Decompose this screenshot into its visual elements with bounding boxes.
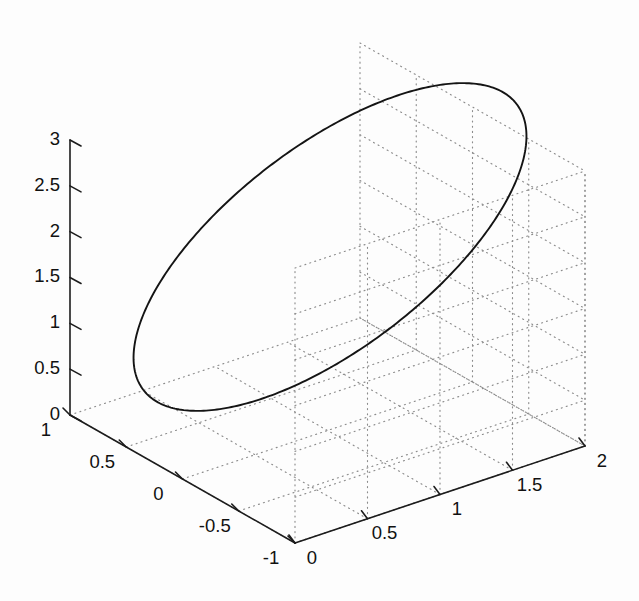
axis-lines — [70, 140, 585, 543]
z-tick — [70, 278, 81, 284]
y-tick-label: 2 — [597, 450, 607, 471]
z-tick-label: 0.5 — [34, 357, 60, 378]
x-tick-label: -0.5 — [199, 515, 231, 536]
rightwall-grid-z — [295, 171, 585, 268]
y-tick-label: 1 — [452, 498, 462, 519]
floor-grid-y — [288, 342, 513, 470]
floor-gridlines — [70, 318, 585, 543]
z-tick — [70, 232, 81, 238]
axis-tick-labels: 10.50-0.5-100.511.5200.511.522.53 — [34, 128, 607, 568]
y-tick — [507, 462, 513, 470]
z-tick — [70, 415, 81, 421]
y-tick-label: 0 — [307, 547, 317, 568]
floor-grid-y — [215, 367, 440, 495]
z-tick — [70, 186, 81, 192]
z-tick-label: 1.5 — [34, 265, 60, 286]
z-tick-label: 2.5 — [34, 174, 60, 195]
floor-grid-x — [70, 318, 360, 415]
z-tick-label: 1 — [50, 311, 60, 332]
floor-grid-y — [143, 391, 368, 519]
z-tick-label: 2 — [50, 220, 60, 241]
ellipse-curve — [134, 83, 527, 411]
z-tick — [70, 369, 81, 375]
x-tick-label: 0.5 — [89, 451, 115, 472]
z-tick-label: 3 — [50, 128, 60, 149]
x-tick — [63, 408, 70, 415]
z-tick — [70, 323, 81, 329]
z-tick — [70, 140, 81, 146]
figure-canvas: 10.50-0.5-100.511.5200.511.522.53 — [0, 0, 639, 601]
floor-grid-x — [126, 350, 416, 447]
x-tick-label: -1 — [263, 547, 279, 568]
left-wall-gridlines — [360, 43, 585, 446]
plot-area: 10.50-0.5-100.511.5200.511.522.53 — [0, 0, 639, 601]
y-tick — [362, 511, 368, 519]
data-curve-ellipse — [134, 83, 527, 411]
y-tick-label: 0.5 — [372, 522, 398, 543]
floor-grid-x — [239, 414, 529, 511]
x-tick-label: 0 — [153, 483, 163, 504]
y-tick-label: 1.5 — [517, 474, 543, 495]
y-tick — [434, 487, 440, 495]
z-tick-label: 0 — [50, 403, 60, 424]
